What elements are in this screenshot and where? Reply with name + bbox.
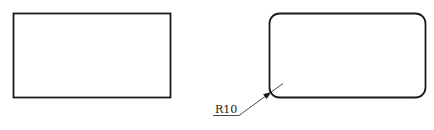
- radius-label: R10: [215, 103, 237, 116]
- sharp-rectangle: [14, 14, 171, 98]
- rounded-rectangle: [270, 14, 426, 98]
- radius-dimension: R10: [213, 84, 283, 117]
- leader-extension: [271, 84, 284, 93]
- drawing-canvas: R10: [0, 0, 434, 130]
- leader-line: [239, 93, 271, 116]
